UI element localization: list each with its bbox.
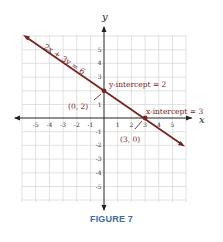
y-tick: 1 bbox=[98, 101, 102, 108]
x-axis-arrow-left-icon bbox=[14, 116, 20, 121]
x-axis-arrow-right-icon bbox=[186, 116, 192, 121]
x-tick: 1 bbox=[116, 121, 120, 128]
pointer-x-intercept bbox=[135, 121, 142, 129]
x-tick: -1 bbox=[88, 121, 94, 128]
point-x-intercept bbox=[143, 116, 148, 121]
x-tick: 2 bbox=[129, 121, 133, 128]
pointer-y-intercept bbox=[94, 94, 101, 100]
y-tick: -5 bbox=[96, 183, 102, 190]
figure-caption: FIGURE 7 bbox=[0, 214, 223, 224]
x-tick: 3 bbox=[143, 121, 147, 128]
y-axis-arrow-up-icon bbox=[102, 26, 107, 32]
y-axis-arrow-down-icon bbox=[102, 205, 107, 211]
x-intercept-label: x-intercept = 3 bbox=[146, 107, 203, 116]
y-tick: 5 bbox=[98, 46, 102, 53]
x-tick: -5 bbox=[33, 121, 39, 128]
y-tick: 4 bbox=[98, 59, 102, 66]
y-tick: -4 bbox=[96, 169, 102, 176]
coordinate-graph: y x -5 -4 -3 -2 -1 1 2 3 4 5 5 4 3 1 -1 … bbox=[0, 0, 223, 242]
x-tick: -4 bbox=[46, 121, 52, 128]
y-tick: -1 bbox=[96, 128, 102, 135]
y-axis-label: y bbox=[101, 11, 108, 22]
y-tick: 3 bbox=[98, 73, 102, 80]
x-tick: -3 bbox=[60, 121, 66, 128]
axes bbox=[15, 27, 192, 210]
y-tick: -2 bbox=[96, 141, 102, 148]
point-y-intercept bbox=[102, 88, 107, 93]
x-tick: 5 bbox=[171, 121, 175, 128]
y-tick: -3 bbox=[96, 155, 102, 162]
x-tick: -2 bbox=[74, 121, 80, 128]
point-label-0-2: (0, 2) bbox=[68, 102, 88, 111]
equation-label: 2x + 3y = 6 bbox=[42, 42, 87, 76]
point-label-3-0: (3, 0) bbox=[120, 135, 140, 144]
y-intercept-label: y-intercept = 2 bbox=[108, 80, 167, 89]
